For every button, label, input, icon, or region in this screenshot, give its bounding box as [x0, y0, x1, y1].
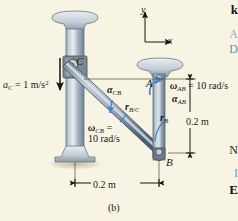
axis-label-y: y: [141, 5, 145, 16]
label-alpha-ab-subscript: AB: [178, 98, 186, 105]
edge-text-a: A: [229, 27, 238, 42]
diagram-canvas: [0, 0, 238, 221]
label-omega-ab-subscript: AB: [177, 85, 185, 92]
point-label-c: C: [76, 56, 83, 68]
dimension-label-vertical: 0.2 m: [186, 117, 209, 128]
post-shaft: [66, 29, 84, 158]
edge-text-i: I: [234, 166, 238, 181]
figure-kinematics-diagram: aC = 1 m/s2 C A B x y αCB rB/C ωCB = 10 …: [0, 0, 238, 221]
dimension-label-horizontal: 0.2 m: [93, 180, 116, 191]
pin-joint-b: [156, 149, 163, 156]
label-ac-exponent: 2: [45, 79, 48, 86]
axis-label-x: x: [168, 36, 172, 47]
point-label-a: A: [146, 78, 153, 90]
label-omega-cb: ωCB = 10 rad/s: [88, 123, 120, 144]
label-omega-cb-line2: 10 rad/s: [88, 134, 120, 145]
bar-ab: [137, 58, 183, 161]
figure-caption: (b): [108, 203, 120, 214]
label-alpha-cb: αCB: [107, 85, 121, 96]
label-ac-value: = 1 m/s: [13, 79, 46, 90]
edge-text-k: k: [231, 2, 238, 18]
edge-text-n: N: [229, 143, 238, 158]
point-label-b: B: [166, 157, 173, 169]
edge-text-e: E: [229, 182, 238, 198]
label-r-b: rB: [160, 113, 168, 124]
label-omega-ab: ωAB = 10 rad/s: [170, 81, 228, 92]
label-r-bc-subscript: B/C: [129, 106, 140, 113]
label-alpha-cb-subscript: CB: [113, 89, 122, 96]
label-r-bc: rB/C: [125, 102, 139, 113]
label-omega-cb-equals: =: [104, 122, 112, 133]
label-omega-ab-value: = 10 rad/s: [186, 80, 229, 91]
edge-text-d: D: [229, 42, 238, 57]
post-base-plate: [55, 146, 95, 162]
post-top-cap: [52, 11, 98, 31]
label-r-b-subscript: B: [164, 117, 168, 124]
label-alpha-ab: αAB: [172, 94, 186, 105]
label-acceleration-c: aC = 1 m/s2: [3, 79, 49, 91]
